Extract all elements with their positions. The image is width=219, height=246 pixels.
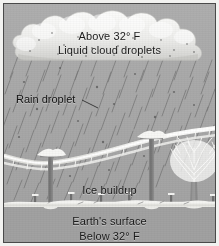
ice-coated-tree — [170, 137, 216, 208]
freezing-rain-diagram: Above 32° F Liquid cloud droplets Rain d… — [0, 0, 219, 246]
label-liquid-cloud-droplets: Liquid cloud droplets — [4, 44, 215, 57]
label-below-temperature: Below 32° F — [4, 230, 215, 243]
rain-droplet-leader — [82, 100, 98, 108]
diagram-frame: Above 32° F Liquid cloud droplets Rain d… — [3, 3, 216, 243]
label-earths-surface: Earth's surface — [4, 215, 215, 228]
rain-droplet-dots — [18, 67, 195, 195]
label-ice-buildup: Ice buildup — [4, 184, 215, 197]
label-rain-droplet: Rain droplet — [16, 93, 75, 106]
label-above-temperature: Above 32° F — [4, 30, 215, 43]
